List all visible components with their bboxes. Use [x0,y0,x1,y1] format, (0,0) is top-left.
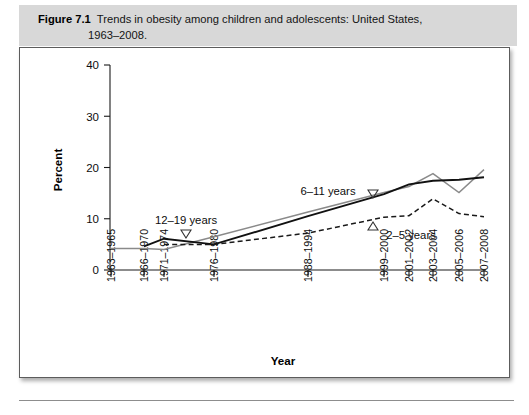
x-tick-label-2005-2006: 2005–2006 [453,229,465,282]
figure-number-label: Figure 7.1 [38,13,91,25]
y-tick-label-30: 30 [86,111,99,123]
series-label-12-19-years: 12–19 years [155,214,218,226]
x-axis-title: Year [271,354,296,367]
triangle-up-icon-2-5 [368,222,378,230]
figure-frame: 0 10 20 30 40 Percent 1963–1965 1966–197… [19,47,510,378]
y-tick-label-40: 40 [86,59,99,71]
x-tick-label-1963-1965: 1963–1965 [105,229,117,282]
y-tick-label-10: 10 [86,213,99,225]
figure-caption-line2: 1963–2008. [38,28,493,44]
obesity-trends-line-chart: 0 10 20 30 40 Percent 1963–1965 1966–197… [20,48,509,377]
series-label-2-5-years: 2–5 years [386,229,436,241]
page-bottom-rule [19,400,514,401]
y-tick-label-20: 20 [86,162,99,174]
triangle-down-icon-12-19 [181,230,191,238]
series-label-6-11-years: 6–11 years [300,185,355,197]
y-axis-title: Percent [51,149,64,192]
x-tick-label-2007-2008: 2007–2008 [478,229,490,282]
x-tick-label-1966-1970: 1966–1970 [138,229,150,282]
y-tick-label-0: 0 [93,264,99,276]
x-tick-label-1971-1974: 1971–1974 [158,229,170,282]
figure-caption-text: Figure 7.1Trends in obesity among childr… [38,12,493,43]
figure-caption-band: Figure 7.1Trends in obesity among childr… [19,5,517,46]
figure-caption-line1: Trends in obesity among children and ado… [91,13,422,25]
x-tick-label-1988-1994: 1988–1994 [302,229,314,282]
